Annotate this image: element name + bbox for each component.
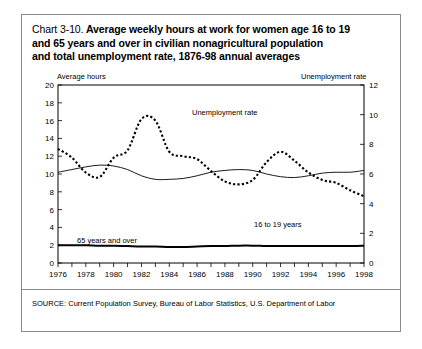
y-axis-right-ticks: 024681012 [360, 81, 378, 268]
svg-text:4: 4 [369, 200, 374, 209]
svg-text:1990: 1990 [244, 270, 262, 279]
svg-text:1978: 1978 [77, 270, 95, 279]
svg-text:2: 2 [369, 229, 374, 238]
svg-text:18: 18 [45, 99, 54, 108]
plot-area: 02468101214161820 024681012 197619781980… [22, 15, 402, 333]
svg-text:1992: 1992 [272, 270, 290, 279]
svg-text:1986: 1986 [188, 270, 206, 279]
svg-text:1996: 1996 [327, 270, 345, 279]
chart-svg: 02468101214161820 024681012 197619781980… [22, 15, 402, 333]
svg-text:12: 12 [369, 81, 378, 90]
annotation-65-years-and-over: 65 years and over [77, 236, 138, 245]
annotation-unemployment-rate: Unemployment rate [192, 108, 257, 117]
svg-text:12: 12 [45, 152, 54, 161]
source-note: SOURCE: Current Population Survey, Burea… [32, 299, 335, 308]
svg-text:1994: 1994 [299, 270, 317, 279]
source-divider [22, 289, 400, 290]
svg-text:2: 2 [50, 241, 55, 250]
svg-text:6: 6 [369, 170, 374, 179]
series-line-unemployment-rate [58, 116, 364, 196]
svg-text:8: 8 [50, 188, 55, 197]
svg-text:10: 10 [45, 170, 54, 179]
svg-text:1998: 1998 [355, 270, 373, 279]
x-axis-ticks: 1976197819801982198419861988199019921994… [49, 263, 373, 279]
svg-text:16: 16 [45, 117, 54, 126]
series-line-65-and-over [58, 245, 364, 247]
svg-text:0: 0 [50, 259, 55, 268]
svg-text:1982: 1982 [133, 270, 151, 279]
svg-text:4: 4 [50, 223, 55, 232]
svg-text:1988: 1988 [216, 270, 234, 279]
svg-text:8: 8 [369, 140, 374, 149]
svg-text:20: 20 [45, 81, 54, 90]
svg-text:1984: 1984 [160, 270, 178, 279]
chart-figure: Chart 3-10. Average weekly hours at work… [21, 14, 401, 332]
svg-text:10: 10 [369, 111, 378, 120]
svg-text:14: 14 [45, 134, 54, 143]
annotation-16-to-19-years: 16 to 19 years [254, 220, 302, 229]
y-axis-left-ticks: 02468101214161820 [45, 81, 62, 268]
svg-text:1980: 1980 [105, 270, 123, 279]
svg-text:1976: 1976 [49, 270, 67, 279]
svg-text:6: 6 [50, 206, 55, 215]
svg-text:0: 0 [369, 259, 374, 268]
